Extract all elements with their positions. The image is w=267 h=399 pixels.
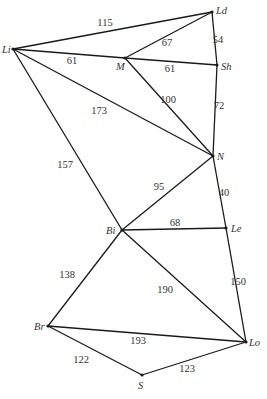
node-dot-ld <box>210 10 213 13</box>
node-dot-lo <box>244 340 247 343</box>
edge-br-s <box>48 326 142 375</box>
node-dot-li <box>11 47 14 50</box>
edge-weight-label: 138 <box>59 269 75 280</box>
edge-weight-label: 95 <box>154 181 165 192</box>
edge-weight-label: 115 <box>97 17 112 28</box>
node-label-m: M <box>115 61 126 72</box>
node-label-s: S <box>138 380 144 391</box>
edge-bi-lo <box>122 230 246 342</box>
graph-edges <box>13 12 246 375</box>
edge-weight-label: 193 <box>130 335 146 346</box>
weighted-graph-diagram: 1156167615417310072157954068138190150193… <box>0 0 267 399</box>
node-dot-bi <box>120 228 123 231</box>
edge-weight-label: 190 <box>157 284 173 295</box>
edge-weight-label: 72 <box>214 100 225 111</box>
edge-weight-label: 68 <box>170 217 181 228</box>
edge-li-bi <box>13 49 122 230</box>
edge-weight-label: 122 <box>73 354 89 365</box>
edge-weight-label: 40 <box>219 187 230 198</box>
edge-weight-label: 157 <box>57 159 73 170</box>
edge-weight-label: 61 <box>67 55 78 66</box>
node-dot-br <box>46 324 49 327</box>
edge-weight-label: 173 <box>91 105 107 116</box>
edge-m-ld <box>125 12 212 58</box>
node-label-br: Br <box>34 321 45 332</box>
edge-weight-label: 123 <box>179 363 195 374</box>
edge-weight-label: 150 <box>230 276 246 287</box>
edge-weight-label: 67 <box>162 37 173 48</box>
edge-n-bi <box>122 156 213 230</box>
edge-weight-label: 61 <box>165 63 176 74</box>
edge-bi-le <box>122 228 226 230</box>
node-dot-s <box>140 373 143 376</box>
edge-li-n <box>13 49 213 156</box>
edge-weight-label: 54 <box>213 34 224 45</box>
node-dot-n <box>211 154 214 157</box>
node-label-ld: Ld <box>215 5 228 16</box>
edge-weight-labels: 1156167615417310072157954068138190150193… <box>57 17 246 374</box>
node-dot-sh <box>215 63 218 66</box>
edge-br-lo <box>48 326 246 342</box>
edge-weight-label: 100 <box>160 94 176 105</box>
node-dot-m <box>123 56 126 59</box>
node-label-li: Li <box>1 44 11 55</box>
node-label-lo: Lo <box>248 337 260 348</box>
node-label-le: Le <box>230 223 242 234</box>
node-label-bi: Bi <box>106 225 115 236</box>
node-dot-le <box>224 226 227 229</box>
node-label-sh: Sh <box>221 61 232 72</box>
node-label-n: N <box>216 151 225 162</box>
